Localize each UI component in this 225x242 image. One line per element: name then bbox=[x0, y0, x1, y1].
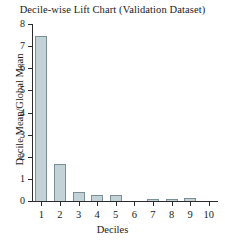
y-tick: 0 bbox=[28, 201, 32, 202]
y-tick-label: 6 bbox=[20, 61, 25, 74]
y-tick-label: 2 bbox=[20, 150, 25, 163]
y-tick: 4 bbox=[28, 113, 32, 114]
y-tick-label: 0 bbox=[20, 194, 25, 207]
plot-area: 012345678 12345678910 bbox=[32, 24, 218, 201]
x-tick bbox=[153, 202, 154, 206]
chart-title: Decile-wise Lift Chart (Validation Datas… bbox=[0, 3, 225, 16]
x-tick-label: 10 bbox=[197, 208, 221, 221]
y-tick-label: 3 bbox=[20, 128, 25, 141]
x-tick bbox=[190, 202, 191, 206]
x-axis-title: Deciles bbox=[0, 224, 225, 236]
y-tick: 5 bbox=[28, 90, 32, 91]
y-tick-label: 8 bbox=[20, 17, 25, 30]
y-tick-label: 7 bbox=[20, 39, 25, 52]
y-tick: 7 bbox=[28, 46, 32, 47]
y-axis-line bbox=[32, 24, 33, 202]
lift-chart-figure: Decile-wise Lift Chart (Validation Datas… bbox=[0, 0, 225, 242]
x-tick bbox=[41, 202, 42, 206]
x-tick bbox=[116, 202, 117, 206]
x-tick bbox=[172, 202, 173, 206]
x-tick bbox=[134, 202, 135, 206]
x-tick bbox=[60, 202, 61, 206]
bar bbox=[91, 195, 103, 201]
y-tick: 6 bbox=[28, 68, 32, 69]
bar bbox=[147, 199, 159, 201]
bar bbox=[35, 36, 47, 201]
bar bbox=[73, 192, 85, 201]
y-tick-label: 1 bbox=[20, 172, 25, 185]
x-tick bbox=[79, 202, 80, 206]
y-tick: 8 bbox=[28, 24, 32, 25]
bar bbox=[110, 195, 122, 201]
y-tick-label: 5 bbox=[20, 83, 25, 96]
bar bbox=[54, 164, 66, 201]
bar bbox=[166, 199, 178, 201]
x-tick bbox=[209, 202, 210, 206]
y-tick-label: 4 bbox=[20, 106, 25, 119]
y-tick: 2 bbox=[28, 157, 32, 158]
y-tick: 1 bbox=[28, 179, 32, 180]
bar bbox=[184, 198, 196, 201]
x-tick bbox=[97, 202, 98, 206]
y-tick: 3 bbox=[28, 135, 32, 136]
